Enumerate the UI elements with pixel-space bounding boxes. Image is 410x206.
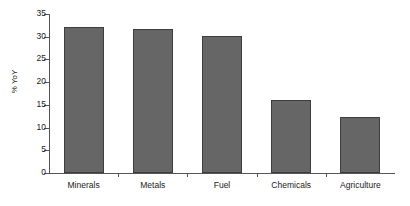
x-axis-category-label: Fuel <box>214 180 231 190</box>
x-axis-category-label: Metals <box>140 180 165 190</box>
y-axis-tick-label: 25 <box>37 53 46 63</box>
x-axis-category-label: Minerals <box>68 180 100 190</box>
y-axis-tick-label: 20 <box>37 76 46 86</box>
x-axis-category-label: Agriculture <box>340 180 381 190</box>
bar <box>271 100 311 173</box>
bar <box>133 29 173 173</box>
x-axis-line <box>49 173 395 174</box>
y-axis-tick-label: 10 <box>37 122 46 132</box>
x-axis-category-label: Chemicals <box>271 180 311 190</box>
plot-area: 05101520253035 <box>49 14 395 173</box>
bar <box>340 117 380 173</box>
bar <box>64 27 104 173</box>
y-axis-tick-label: 30 <box>37 31 46 41</box>
x-axis-tick <box>326 173 327 177</box>
x-axis-tick <box>257 173 258 177</box>
y-axis-label: % YoY <box>10 52 19 112</box>
bars-layer <box>49 14 395 173</box>
y-axis-tick-label: 0 <box>41 167 46 177</box>
x-axis-tick <box>187 173 188 177</box>
y-axis-tick-label: 35 <box>37 8 46 18</box>
y-axis-tick-label: 15 <box>37 99 46 109</box>
y-axis-tick-label: 5 <box>41 144 46 154</box>
bar-chart: % YoY 05101520253035 MineralsMetalsFuelC… <box>0 0 410 206</box>
x-axis-tick <box>118 173 119 177</box>
bar <box>202 36 242 173</box>
